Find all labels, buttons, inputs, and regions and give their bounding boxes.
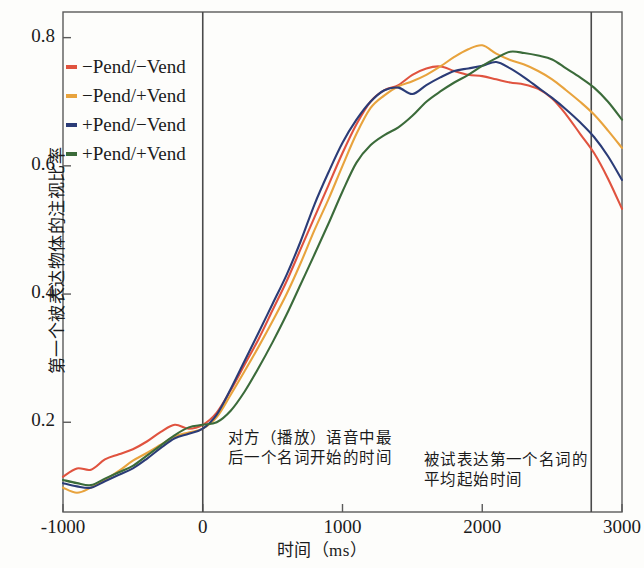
x-tick-label-1: 0 [158,516,248,538]
legend-label-series-3: +Pend/+Vend [82,143,186,165]
legend-item-pend-pos-vend-pos: +Pend/+Vend [66,139,256,168]
legend-item-pend-pos-vend-neg: +Pend/−Vend [66,110,256,139]
legend-swatch-series-0 [66,65,77,69]
y-tick-label-3: 0.2 [7,409,55,431]
legend-item-pend-neg-vend-pos: −Pend/+Vend [66,81,256,110]
x-tick-label-4: 3000 [577,516,644,538]
legend-swatch-series-3 [66,152,77,156]
legend-swatch-series-2 [66,123,77,127]
y-tick-label-2: 0.4 [7,281,55,303]
annotation-onset-last-noun-partner: 对方（播放）语音中最后一个名词开始的时间 [228,428,403,468]
legend-item-pend-neg-vend-neg: −Pend/−Vend [66,52,256,81]
legend-label-series-1: −Pend/+Vend [82,85,186,107]
figure: 第一个被表达物体的注视比率 时间（ms） −Pend/−Vend −Pend/+… [0,0,644,568]
x-tick-label-3: 2000 [437,516,527,538]
legend-label-series-0: −Pend/−Vend [82,56,186,78]
x-tick-label-0: -1000 [18,516,108,538]
legend: −Pend/−Vend −Pend/+Vend +Pend/−Vend +Pen… [66,52,256,168]
annotation-mean-onset-first-noun-subject: 被试表达第一个名词的平均起始时间 [424,450,594,490]
legend-swatch-series-1 [66,94,77,98]
legend-label-series-2: +Pend/−Vend [82,114,186,136]
y-tick-label-0: 0.8 [7,25,55,47]
x-tick-label-2: 1000 [298,516,388,538]
x-axis-label: 时间（ms） [0,536,644,561]
y-tick-label-1: 0.6 [7,153,55,175]
